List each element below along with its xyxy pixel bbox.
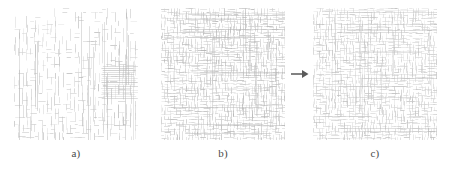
panel-b-label: b)	[161, 147, 285, 159]
panel-a-label: a)	[14, 147, 138, 159]
figure-container: a) b) c)	[0, 0, 450, 171]
panel-a	[14, 8, 138, 140]
panel-c-label: c)	[313, 147, 437, 159]
panel-b	[161, 8, 285, 140]
transformation-arrow-icon	[291, 68, 309, 80]
panel-c	[313, 8, 437, 140]
panel-a-texture	[14, 8, 138, 140]
panel-b-texture	[161, 8, 285, 140]
panel-c-texture	[313, 8, 437, 140]
